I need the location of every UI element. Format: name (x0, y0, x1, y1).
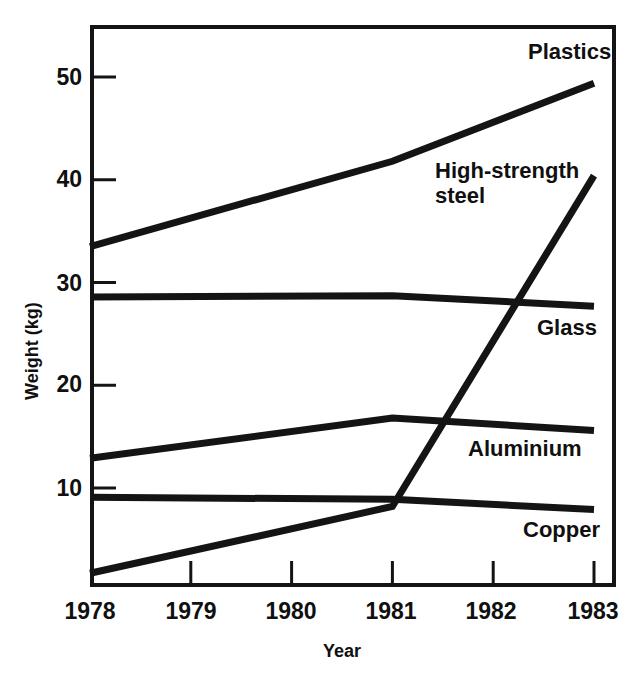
series-path-high-strength-steel (90, 176, 594, 574)
series-label-high-strength-steel: High-strength steel (435, 159, 579, 208)
series-label-plastics: Plastics (528, 40, 611, 65)
series-label-aluminium: Aluminium (468, 437, 582, 462)
series-path-copper (90, 497, 594, 509)
line-chart: 50 40 30 20 10 Weight (kg) 1978 1979 198… (0, 0, 634, 675)
series-label-copper: Copper (523, 518, 600, 543)
series-label-glass: Glass (537, 316, 597, 341)
series-paths (90, 83, 594, 573)
